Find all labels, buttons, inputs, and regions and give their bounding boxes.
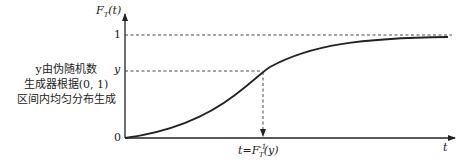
tick-one: 1 xyxy=(114,28,121,41)
note-line: 生成器根据(0, 1) xyxy=(8,77,124,92)
cdf-curve xyxy=(125,37,448,138)
note-line: y由伪随机数 xyxy=(8,62,124,77)
tick-zero: 0 xyxy=(114,131,121,144)
y-axis-label: FT(t) xyxy=(96,4,121,19)
inverse-label: t=F-1T(y) xyxy=(238,143,279,159)
inverse-cdf-diagram: FT(t) 1 y 0 t t=F-1T(y) y由伪随机数 生成器根据(0, … xyxy=(0,0,469,165)
x-axis-label: t xyxy=(443,141,447,154)
generation-note: y由伪随机数 生成器根据(0, 1) 区间内均匀分布生成 xyxy=(8,62,124,107)
note-line: 区间内均匀分布生成 xyxy=(8,92,124,107)
